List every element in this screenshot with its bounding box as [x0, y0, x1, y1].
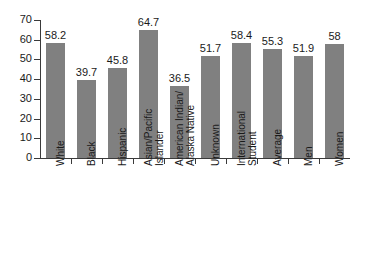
x-axis-tick-label-line: International	[236, 111, 247, 166]
y-axis-tick-label: 10	[8, 132, 32, 143]
x-axis-tick-label-line: American Indian/	[174, 91, 185, 166]
x-axis-tick-label-line: Women	[334, 132, 345, 166]
bar-value-label: 36.5	[161, 73, 198, 84]
x-axis-tick-label: Men	[303, 147, 314, 166]
x-axis-tick-label: American Indian/Alaska Native	[174, 91, 196, 166]
x-axis-tick-label: InternationalStudent	[236, 111, 258, 166]
x-axis-tick	[133, 159, 134, 164]
bar-value-label: 58.2	[37, 30, 74, 41]
bar-chart: 010203040506070 58.239.745.864.736.551.7…	[0, 0, 371, 258]
y-axis-tick-label: 70	[8, 14, 32, 25]
x-axis-tick-label: Hispanic	[117, 128, 128, 166]
x-axis-tick-label-line: Hispanic	[117, 128, 128, 166]
x-axis-tick-label: Black	[86, 142, 97, 166]
x-axis-tick	[288, 159, 289, 164]
x-axis-tick-label-line: Asian/Pacific	[143, 109, 154, 166]
y-axis-tick-label: 50	[8, 53, 32, 64]
bar-value-label: 39.7	[68, 67, 105, 78]
x-axis-tick-label-line: Alaska Native	[185, 91, 196, 166]
bar-value-label: 51.7	[192, 43, 229, 54]
bar-value-label: 64.7	[130, 17, 167, 28]
x-axis-tick-label-line: Student	[247, 111, 258, 166]
y-axis-tick-label: 40	[8, 73, 32, 84]
x-axis-tick-label: Asian/PacificIslander	[143, 109, 165, 166]
y-axis-tick	[34, 119, 40, 120]
bar-value-label: 51.9	[285, 43, 322, 54]
x-axis-tick-label: Women	[334, 132, 345, 166]
y-axis-tick	[34, 20, 40, 21]
y-axis-tick-label: 60	[8, 34, 32, 45]
x-axis-tick	[226, 159, 227, 164]
bar-value-label: 58	[316, 31, 353, 42]
x-axis-tick-label-line: Unknown	[210, 124, 221, 166]
x-axis-tick-label-line: Average	[272, 129, 283, 166]
y-axis-tick-label: 20	[8, 113, 32, 124]
x-axis-tick-label-line: White	[55, 140, 66, 166]
x-axis-tick-label-line: Black	[86, 142, 97, 166]
y-axis-tick	[34, 99, 40, 100]
bar	[294, 56, 313, 158]
x-axis-tick-label-line: Men	[303, 147, 314, 166]
y-axis-tick	[34, 79, 40, 80]
x-axis-tick	[319, 159, 320, 164]
y-axis-tick	[34, 59, 40, 60]
x-axis-tick-label-line: Islander	[154, 109, 165, 166]
bar-value-label: 45.8	[99, 55, 136, 66]
y-axis-tick-label: 30	[8, 93, 32, 104]
x-axis-tick	[102, 159, 103, 164]
y-axis-tick	[34, 138, 40, 139]
x-axis-tick-label: Average	[272, 129, 283, 166]
x-axis-tick-label: White	[55, 140, 66, 166]
y-axis-tick-label: 0	[8, 152, 32, 163]
x-axis-tick	[71, 159, 72, 164]
x-axis-tick-label: Unknown	[210, 124, 221, 166]
